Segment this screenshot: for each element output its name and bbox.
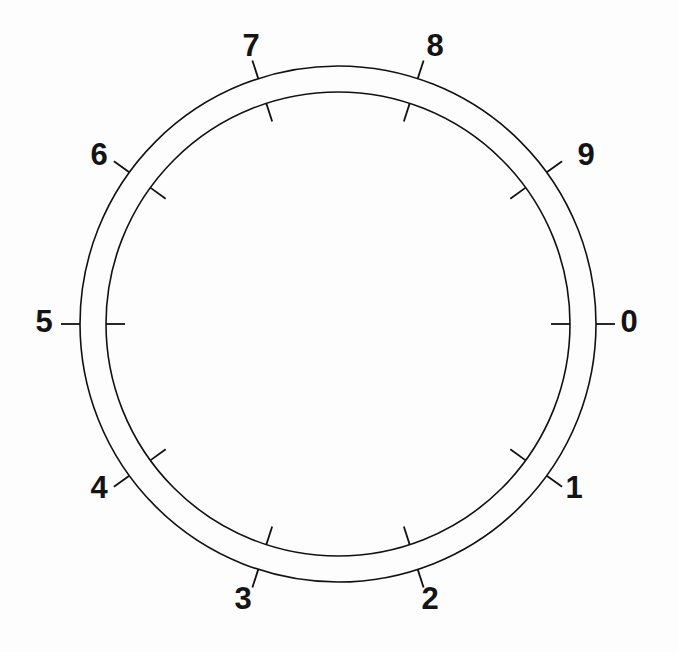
outer-tick-6 xyxy=(114,476,129,487)
dial-label-8: 8 xyxy=(426,28,443,63)
inner-tick-9 xyxy=(510,449,525,460)
dial-label-6: 6 xyxy=(90,137,107,172)
dial-label-7: 7 xyxy=(242,28,259,63)
inner-tick-8 xyxy=(404,527,410,545)
outer-tick-7 xyxy=(252,569,258,587)
dial-label-9: 9 xyxy=(577,137,594,172)
outer-ring-circle xyxy=(80,66,596,582)
dial-figure: 0123456789 xyxy=(0,0,678,652)
dial-label-5: 5 xyxy=(35,304,52,339)
tick-group xyxy=(61,61,615,588)
outer-tick-4 xyxy=(114,161,129,172)
label-group: 0123456789 xyxy=(35,28,637,616)
outer-tick-3 xyxy=(252,61,258,79)
inner-tick-7 xyxy=(266,527,272,545)
outer-tick-2 xyxy=(418,61,424,79)
dial-label-4: 4 xyxy=(90,470,108,505)
ring-group xyxy=(80,66,596,582)
dial-label-2: 2 xyxy=(421,581,438,616)
dial-label-1: 1 xyxy=(565,470,582,505)
dial-diagram: 0123456789 xyxy=(0,0,678,652)
outer-tick-1 xyxy=(547,161,562,172)
inner-ring-circle xyxy=(106,92,570,556)
dial-label-0: 0 xyxy=(620,304,637,339)
outer-tick-9 xyxy=(547,476,562,487)
inner-tick-4 xyxy=(150,188,165,199)
inner-tick-2 xyxy=(404,103,410,121)
dial-label-3: 3 xyxy=(234,581,251,616)
inner-tick-6 xyxy=(150,449,165,460)
inner-tick-3 xyxy=(266,103,272,121)
inner-tick-1 xyxy=(510,188,525,199)
